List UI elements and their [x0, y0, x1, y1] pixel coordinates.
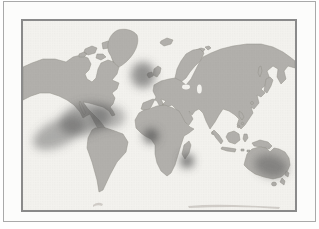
world-map-figure: [0, 0, 319, 229]
map-panel: [21, 19, 297, 212]
world-map-svg: [23, 21, 295, 210]
halftone-texture: [23, 21, 295, 210]
